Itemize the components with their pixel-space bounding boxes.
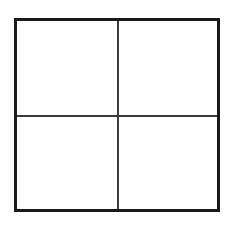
grid-outer-frame [14,18,220,212]
quadrant-top-right[interactable] [117,21,217,115]
figure-canvas [0,0,232,225]
divider-horizontal-line [17,115,217,117]
quadrant-bottom-right[interactable] [117,115,217,209]
quadrant-bottom-left[interactable] [17,115,117,209]
quadrant-top-left[interactable] [17,21,117,115]
